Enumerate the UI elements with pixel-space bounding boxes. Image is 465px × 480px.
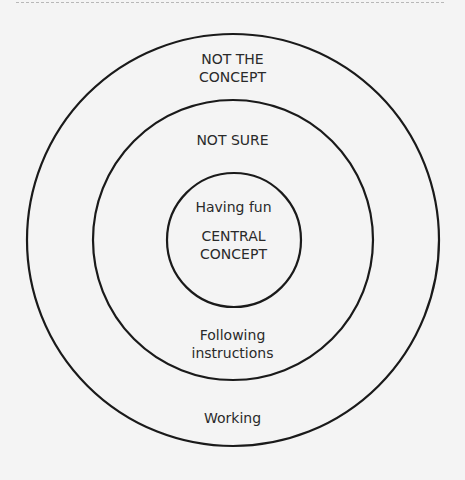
middle-example-text: Following instructions	[0, 326, 465, 362]
outer-example-text: Working	[0, 409, 465, 427]
outer-label-line1: NOT THE	[0, 50, 465, 68]
inner-label-line2: CONCEPT	[1, 245, 465, 263]
outer-circle-label: NOT THE CONCEPT	[0, 50, 465, 86]
inner-example-text: Having fun	[1, 198, 465, 216]
inner-label-line1: CENTRAL	[1, 227, 465, 245]
middle-example-line2: instructions	[0, 344, 465, 362]
outer-label-line2: CONCEPT	[0, 68, 465, 86]
middle-example-line1: Following	[0, 326, 465, 344]
inner-circle-label: CENTRAL CONCEPT	[1, 227, 465, 263]
middle-circle-label: NOT SURE	[0, 131, 465, 149]
